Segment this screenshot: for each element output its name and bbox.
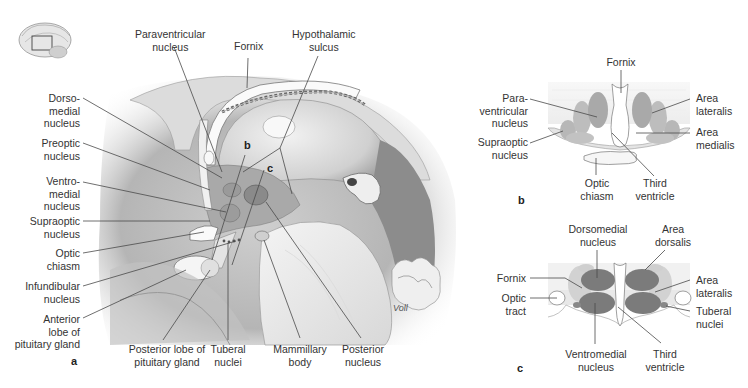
label-tuberal-nuclei: Tuberal nuclei xyxy=(208,343,248,368)
label-b-supraoptic-nucleus: Supraoptic nucleus xyxy=(466,136,528,161)
panel-letter-b: b xyxy=(518,194,525,206)
panel-letter-a: a xyxy=(71,355,77,367)
section-marker-c: c xyxy=(267,162,273,174)
label-b-paraventricular-nucleus: Para- ventricular nucleus xyxy=(466,92,528,130)
label-c-dorsomedial-nucleus: Dorsomedial nucleus xyxy=(565,223,631,248)
label-posterior-nucleus: Posterior nucleus xyxy=(338,343,388,368)
section-marker-b: b xyxy=(244,139,251,151)
panel-letter-c: c xyxy=(517,362,523,374)
panel-c-drawing xyxy=(548,263,691,326)
label-c-third-ventricle: Third ventricle xyxy=(640,348,690,373)
label-mammillary-body: Mammillary body xyxy=(270,343,330,368)
label-c-area-dorsalis: Area dorsalis xyxy=(650,223,696,248)
panel-b-drawing xyxy=(548,82,690,165)
label-dorsomedial-nucleus: Dorso- medial nucleus xyxy=(30,92,80,130)
label-hypothalamic-sulcus: Hypothalamic sulcus xyxy=(292,28,356,53)
label-optic-chiasm: Optic chiasm xyxy=(20,247,80,272)
label-c-area-lateralis: Area lateralis xyxy=(696,274,732,299)
label-b-fornix: Fornix xyxy=(600,56,642,69)
label-c-ventromedial-nucleus: Ventromedial nucleus xyxy=(561,348,631,373)
label-c-fornix: Fornix xyxy=(480,272,526,285)
artist-signature: Voll xyxy=(393,302,408,315)
label-ventromedial-nucleus: Ventro- medial nucleus xyxy=(30,175,80,213)
label-preoptic-nucleus: Preoptic nucleus xyxy=(20,137,80,162)
label-b-area-lateralis: Area lateralis xyxy=(696,92,732,117)
label-infundibular-nucleus: Infundibular nucleus xyxy=(0,280,80,305)
label-supraoptic-nucleus: Supraoptic nucleus xyxy=(10,215,80,240)
label-fornix: Fornix xyxy=(234,40,263,53)
label-b-optic-chiasm: Optic chiasm xyxy=(576,177,618,202)
label-b-third-ventricle: Third ventricle xyxy=(630,177,680,202)
label-c-optic-tract: Optic tract xyxy=(480,292,526,317)
label-anterior-lobe-pituitary: Anterior lobe of pituitary gland xyxy=(0,313,80,351)
label-b-area-medialis: Area medialis xyxy=(696,126,735,151)
label-posterior-lobe-pituitary: Posterior lobe of pituitary gland xyxy=(122,343,212,368)
label-c-tuberal-nuclei: Tuberal nuclei xyxy=(696,305,731,330)
brain-thumbnail-icon xyxy=(19,23,71,58)
label-paraventricular-nucleus: Paraventricular nucleus xyxy=(135,28,206,53)
